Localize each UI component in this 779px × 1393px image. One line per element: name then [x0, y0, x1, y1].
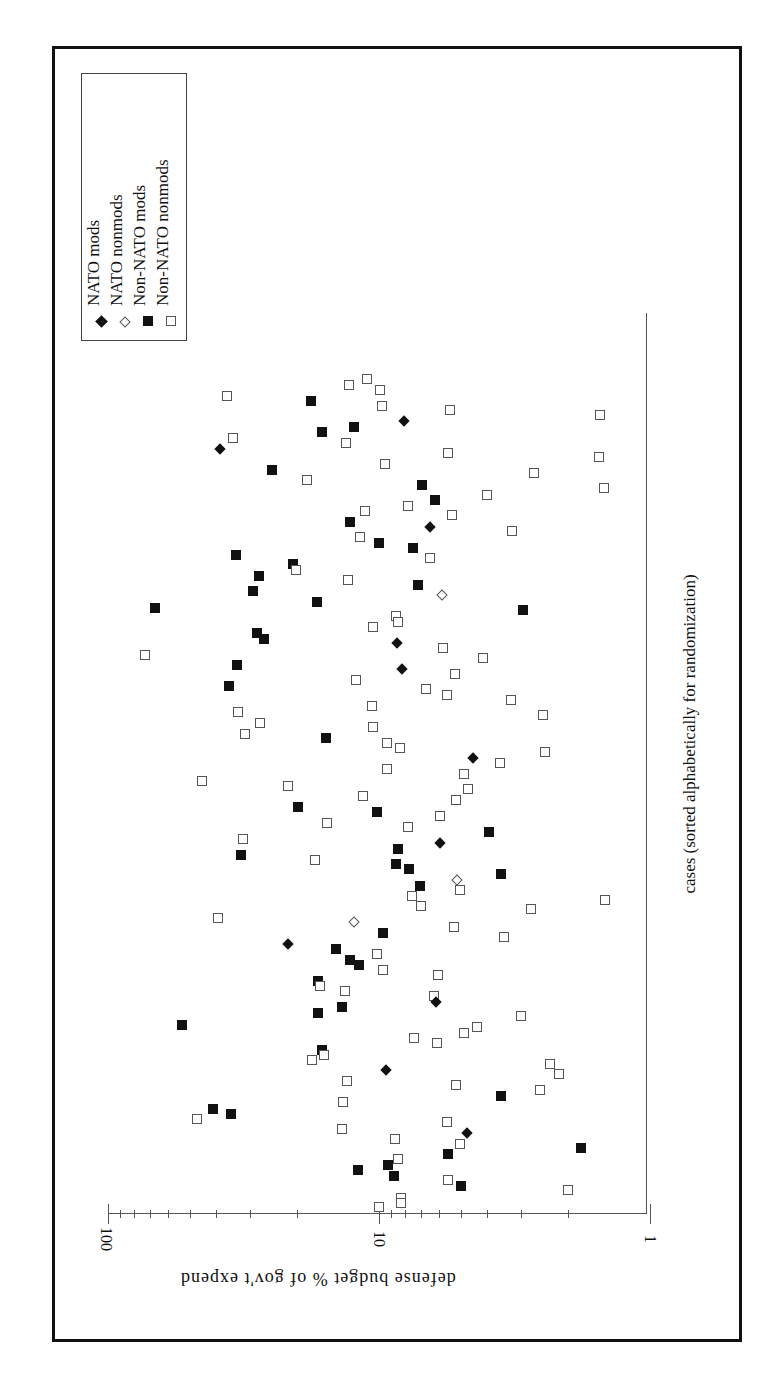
data-point [529, 468, 539, 478]
data-point [293, 802, 303, 812]
data-point [455, 885, 465, 895]
data-point [449, 922, 459, 932]
data-point [378, 965, 388, 975]
axis-tick [120, 1210, 121, 1218]
data-point [506, 695, 516, 705]
data-point [390, 1134, 400, 1144]
category-axis [646, 313, 647, 1214]
data-point [374, 538, 384, 548]
data-point [443, 1175, 453, 1185]
data-point [353, 1165, 363, 1175]
data-point [442, 1117, 452, 1127]
data-point [341, 438, 351, 448]
data-point [310, 855, 320, 865]
data-point [382, 738, 392, 748]
data-point [445, 405, 455, 415]
data-point [315, 981, 325, 991]
data-point [451, 1080, 461, 1090]
data-point [472, 1022, 482, 1032]
data-point [331, 944, 341, 954]
data-point [433, 970, 443, 980]
legend-label: Non-NATO mods [130, 185, 150, 306]
data-point [450, 669, 460, 679]
data-point [395, 743, 405, 753]
data-point [232, 660, 242, 670]
data-point [443, 1149, 453, 1159]
data-point [408, 543, 418, 553]
data-point [463, 784, 473, 794]
legend-item-non-nato-nonmods: Non-NATO nonmods [161, 80, 181, 340]
data-point [236, 850, 246, 860]
axis-tick [216, 1210, 217, 1218]
data-point [404, 864, 414, 874]
data-point [291, 565, 301, 575]
data-point [306, 396, 316, 406]
data-point [518, 605, 528, 615]
data-point [354, 960, 364, 970]
data-point [545, 1059, 555, 1069]
data-point [451, 795, 461, 805]
data-point [413, 580, 423, 590]
axis-tick [250, 1210, 251, 1218]
data-point [362, 374, 372, 384]
data-point [283, 781, 293, 791]
data-point [377, 401, 387, 411]
data-point [259, 634, 269, 644]
data-point [231, 550, 241, 560]
data-point [344, 380, 354, 390]
axis-tick [461, 1210, 462, 1218]
axis-tick [421, 1210, 422, 1218]
data-point [368, 722, 378, 732]
data-point [416, 901, 426, 911]
data-point [393, 1154, 403, 1164]
data-point [307, 1055, 317, 1065]
data-point [378, 928, 388, 938]
data-point [417, 480, 427, 490]
data-point [337, 1124, 347, 1134]
legend: NATO mods NATO nonmods Non-NATO mods Non… [81, 73, 187, 341]
data-point [478, 653, 488, 663]
data-point [313, 1008, 323, 1018]
data-point [594, 452, 604, 462]
data-point [255, 718, 265, 728]
data-point [563, 1185, 573, 1195]
data-point [443, 448, 453, 458]
data-point [319, 1050, 329, 1060]
data-point [213, 913, 223, 923]
data-point [459, 1028, 469, 1038]
data-point [345, 517, 355, 527]
data-point [343, 575, 353, 585]
data-point [372, 949, 382, 959]
data-point [516, 1011, 526, 1021]
data-point [375, 385, 385, 395]
data-point [595, 410, 605, 420]
data-point [140, 650, 150, 660]
data-point [355, 532, 365, 542]
data-point [507, 526, 517, 536]
data-point [447, 510, 457, 520]
data-point [482, 490, 492, 500]
data-point [321, 733, 331, 743]
data-point [600, 895, 610, 905]
data-point [415, 881, 425, 891]
data-point [192, 1114, 202, 1124]
data-point [456, 1181, 466, 1191]
axis-tick [297, 1210, 298, 1218]
open-square-icon [166, 316, 176, 326]
data-point [222, 391, 232, 401]
data-point [226, 1109, 236, 1119]
data-point [459, 769, 469, 779]
data-point [337, 1002, 347, 1012]
axis-tick [521, 1210, 522, 1218]
data-point [302, 475, 312, 485]
data-point [267, 465, 277, 475]
axis-tick [190, 1210, 191, 1218]
data-point [496, 1091, 506, 1101]
axis-tick [568, 1210, 569, 1218]
data-point [338, 1097, 348, 1107]
data-point [526, 904, 536, 914]
data-point [208, 1104, 218, 1114]
data-point [538, 710, 548, 720]
data-point [233, 707, 243, 717]
data-point [540, 747, 550, 757]
